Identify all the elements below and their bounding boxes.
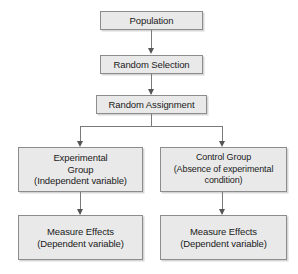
node-measure-effects-left-line-2: (Dependent variable) [37,238,124,250]
node-population[interactable]: Population [100,11,203,30]
node-measure-effects-left-line-1: Measure Effects [47,226,114,238]
node-random-selection[interactable]: Random Selection [100,55,203,74]
node-control-group-line-3: condition) [204,175,242,187]
node-measure-effects-right[interactable]: Measure Effects (Dependent variable) [160,215,287,260]
node-control-group-line-1: Control Group [196,152,251,164]
node-measure-effects-right-line-1: Measure Effects [190,226,257,238]
edge-population-to-random-selection-arrow [148,48,154,54]
node-control-group-line-2: (Absence of experimental [174,164,274,176]
node-random-selection-line-1: Random Selection [113,59,189,71]
node-control-group[interactable]: Control Group (Absence of experimental c… [160,147,287,192]
edge-population-to-random-selection-line [151,30,152,49]
flowchart-canvas: Population Random Selection Random Assig… [0,0,298,274]
node-experimental-group-line-2: Group [68,164,94,176]
node-measure-effects-right-line-2: (Dependent variable) [180,238,267,250]
node-population-line-1: Population [130,15,174,27]
edge-branch-bar [80,126,223,127]
node-random-assignment-line-1: Random Assignment [109,99,195,111]
node-measure-effects-left[interactable]: Measure Effects (Dependent variable) [18,215,143,260]
node-experimental-group-line-3: (Independent variable) [34,175,127,187]
node-experimental-group-line-1: Experimental [53,152,107,164]
node-random-assignment[interactable]: Random Assignment [96,95,207,114]
node-experimental-group[interactable]: Experimental Group (Independent variable… [18,147,143,192]
